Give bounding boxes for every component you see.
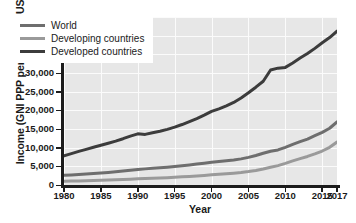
legend-item: Developing countries [20,32,144,45]
series-line-developing-countries [64,142,337,181]
x-axis-title: Year [63,203,337,215]
x-tick-label: 1980 [53,190,74,201]
x-tick-label: 2000 [201,190,222,201]
legend-item-label: Developed countries [51,46,142,57]
legend-swatch-icon [20,37,45,41]
legend-swatch-icon [20,24,45,28]
x-axis-line [61,185,340,188]
y-tick-mark [56,73,61,75]
y-tick-label: 10,000 [25,142,54,153]
y-tick-label: 5,000 [30,160,54,171]
y-tick-label: 30,000 [25,67,54,78]
x-tick-label: 2010 [275,190,296,201]
y-tick-mark [56,129,61,131]
y-tick-mark [56,166,61,168]
x-tick-label: 2017 [326,190,347,201]
y-tick-mark [56,147,61,149]
y-tick-label: 20,000 [25,104,54,115]
series-line-world [64,122,337,175]
legend-item-label: Developing countries [51,33,144,44]
x-tick-label: 1995 [164,190,185,201]
y-tick-label: 15,000 [25,123,54,134]
legend-item-label: World [51,20,77,31]
chart-legend: WorldDeveloping countriesDeveloped count… [13,14,153,63]
x-tick-label: 1990 [127,190,148,201]
legend-swatch-icon [20,50,45,54]
chart-figure: Income (GNI PPP per capita in US $) 05,0… [0,0,356,223]
x-tick-label: 1985 [90,190,111,201]
legend-item: Developed countries [20,45,144,58]
x-tick-label: 2005 [238,190,259,201]
y-tick-mark [56,91,61,93]
y-tick-mark [56,185,61,187]
y-tick-label: 25,000 [25,86,54,97]
legend-item: World [20,19,144,32]
y-tick-label: 0 [49,179,54,190]
y-tick-mark [56,110,61,112]
